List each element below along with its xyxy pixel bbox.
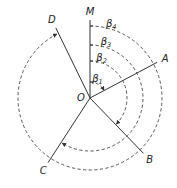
- point-label-m: M: [86, 6, 95, 17]
- angle-label-beta-1: β1: [91, 73, 103, 86]
- point-label-b: B: [146, 154, 153, 165]
- angle-arc-beta-2: [90, 61, 127, 124]
- ray-c: [48, 98, 90, 163]
- ray-d: [56, 28, 90, 98]
- point-label-c: C: [40, 165, 47, 176]
- angle-label-beta-4: β4: [105, 18, 117, 31]
- angle-label-beta-3: β3: [100, 36, 112, 49]
- angle-diagram: MABCDOβ1β2β3β4: [0, 0, 177, 188]
- point-label-a: A: [161, 53, 169, 64]
- point-label-d: D: [48, 14, 56, 25]
- center-label-o: O: [77, 92, 85, 103]
- diagram-canvas: MABCDOβ1β2β3β4: [0, 0, 177, 188]
